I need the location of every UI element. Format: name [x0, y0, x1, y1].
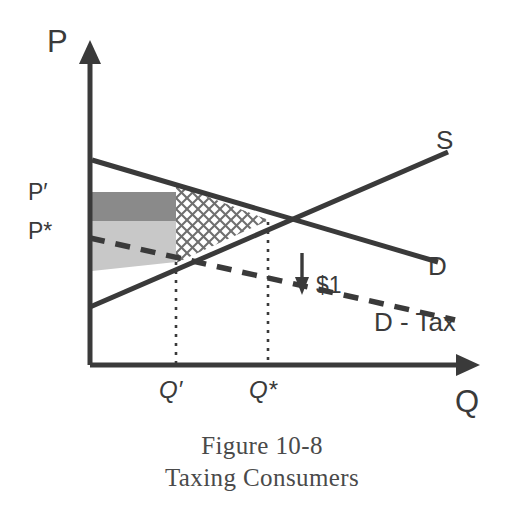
figure-caption-title: Taxing Consumers — [0, 464, 524, 492]
demand-after-tax-curve-label: D - Tax — [374, 307, 456, 337]
quantity-tick-label-q-prime: Q′ — [159, 376, 184, 403]
supply-curve-label: S — [436, 125, 453, 155]
y-axis-arrowhead — [79, 40, 101, 64]
x-axis-arrowhead — [456, 354, 480, 376]
y-axis-label: P — [47, 24, 68, 59]
region-consumer-tax-burden — [92, 192, 176, 221]
quantity-tick-label-q-star: Q* — [249, 376, 278, 403]
x-axis-label: Q — [455, 384, 479, 419]
figure-container: P Q P′ P* Q′ Q* S D D - Tax $1 Figure 10… — [0, 0, 524, 522]
price-tick-label-p-prime: P′ — [28, 179, 48, 205]
tax-amount-label: $1 — [316, 272, 342, 298]
price-tick-label-p-star: P* — [28, 218, 52, 244]
figure-caption-number: Figure 10-8 — [0, 432, 524, 460]
demand-curve-label: D — [428, 251, 447, 281]
region-producer-tax-burden — [92, 221, 176, 271]
